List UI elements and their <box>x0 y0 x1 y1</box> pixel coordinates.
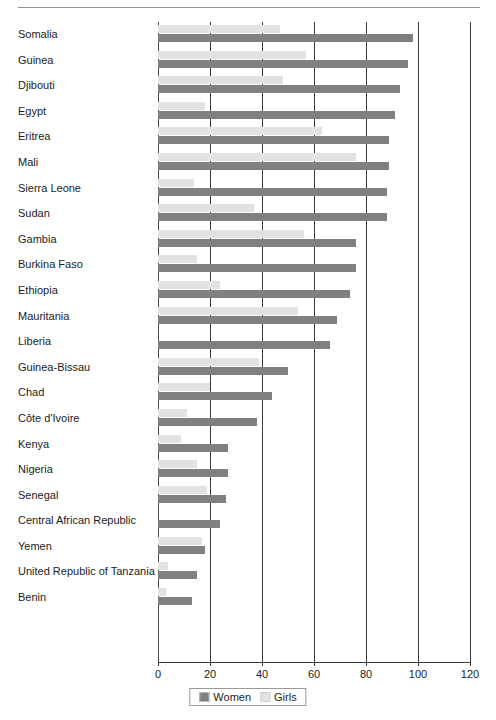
bar-girls <box>158 435 181 443</box>
category-label: Côte d'Ivoire <box>0 406 150 432</box>
legend-swatch-women <box>199 692 209 702</box>
x-tick-label-0: 0 <box>155 668 161 680</box>
legend-label-women: Women <box>213 691 251 703</box>
bar-women <box>158 111 395 119</box>
category-label: Sierra Leone <box>0 176 150 202</box>
bar-row <box>158 48 470 74</box>
bar-women <box>158 495 226 503</box>
category-label: Egypt <box>0 99 150 125</box>
category-label: Somalia <box>0 22 150 48</box>
bar-women <box>158 597 192 605</box>
bar-girls <box>158 153 356 161</box>
bar-girls <box>158 537 202 545</box>
bar-rows <box>158 22 470 662</box>
bar-women <box>158 571 197 579</box>
category-label: Senegal <box>0 483 150 509</box>
bar-row <box>158 252 470 278</box>
bar-girls <box>158 486 207 494</box>
bar-women <box>158 418 257 426</box>
bar-women <box>158 60 408 68</box>
bar-girls <box>158 127 322 135</box>
bar-row <box>158 432 470 458</box>
bar-girls <box>158 76 283 84</box>
bar-women <box>158 469 228 477</box>
x-tick-20 <box>210 662 211 666</box>
bar-women <box>158 188 387 196</box>
category-label: Chad <box>0 380 150 406</box>
legend-label-girls: Girls <box>274 691 297 703</box>
category-label: Guinea-Bissau <box>0 355 150 381</box>
bar-girls <box>158 204 254 212</box>
bar-women <box>158 392 272 400</box>
bar-girls <box>158 409 187 417</box>
bar-row <box>158 457 470 483</box>
legend-swatch-girls <box>260 692 270 702</box>
bar-row <box>158 304 470 330</box>
bar-row <box>158 124 470 150</box>
category-label: Kenya <box>0 432 150 458</box>
category-label: Burkina Faso <box>0 252 150 278</box>
bar-girls <box>158 307 298 315</box>
bar-row <box>158 559 470 585</box>
x-tick-40 <box>262 662 263 666</box>
bar-women <box>158 34 413 42</box>
bar-women <box>158 264 356 272</box>
bar-girls <box>158 588 166 596</box>
bar-women <box>158 136 389 144</box>
plot-area <box>158 22 470 662</box>
bar-row <box>158 585 470 611</box>
category-label: United Republic of Tanzania <box>0 559 150 585</box>
bar-girls <box>158 460 197 468</box>
x-tick-label-20: 20 <box>204 668 216 680</box>
bar-girls <box>158 383 210 391</box>
category-label: Mali <box>0 150 150 176</box>
bar-row <box>158 508 470 534</box>
x-tick-80 <box>366 662 367 666</box>
category-label: Central African Republic <box>0 508 150 534</box>
bar-women <box>158 316 337 324</box>
gridline-120 <box>470 22 471 662</box>
bar-women <box>158 162 389 170</box>
bar-girls <box>158 25 280 33</box>
bar-women <box>158 444 228 452</box>
bar-women <box>158 341 330 349</box>
bar-row <box>158 329 470 355</box>
bar-girls <box>158 51 306 59</box>
bar-row <box>158 176 470 202</box>
bar-women <box>158 520 220 528</box>
x-tick-120 <box>470 662 471 666</box>
chart-figure: SomaliaGuineaDjiboutiEgyptEritreaMaliSie… <box>0 0 496 720</box>
category-label: Sudan <box>0 201 150 227</box>
bar-women <box>158 546 205 554</box>
chart-legend: Women Girls <box>189 688 306 706</box>
bar-row <box>158 534 470 560</box>
category-label: Djibouti <box>0 73 150 99</box>
x-tick-label-120: 120 <box>461 668 479 680</box>
category-label: Gambia <box>0 227 150 253</box>
bar-row <box>158 483 470 509</box>
bar-row <box>158 227 470 253</box>
bar-girls <box>158 102 205 110</box>
bar-girls <box>158 179 194 187</box>
bar-women <box>158 367 288 375</box>
bar-row <box>158 22 470 48</box>
bar-girls <box>158 255 197 263</box>
x-tick-label-60: 60 <box>308 668 320 680</box>
x-tick-label-100: 100 <box>409 668 427 680</box>
category-label: Guinea <box>0 48 150 74</box>
bar-women <box>158 239 356 247</box>
bar-women <box>158 85 400 93</box>
x-tick-60 <box>314 662 315 666</box>
top-divider-rule <box>18 7 480 8</box>
category-label: Eritrea <box>0 124 150 150</box>
bar-row <box>158 99 470 125</box>
bar-row <box>158 355 470 381</box>
category-label: Yemen <box>0 534 150 560</box>
category-label: Benin <box>0 585 150 611</box>
category-label: Mauritania <box>0 304 150 330</box>
bar-row <box>158 73 470 99</box>
bar-women <box>158 290 350 298</box>
bar-girls <box>158 281 220 289</box>
x-tick-label-80: 80 <box>360 668 372 680</box>
x-tick-100 <box>418 662 419 666</box>
